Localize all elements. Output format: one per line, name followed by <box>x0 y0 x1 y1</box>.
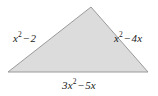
right-side-term: 4x <box>131 32 142 44</box>
right-side-label: x2−4x <box>114 33 142 44</box>
base-label: 3x2−5x <box>0 80 158 91</box>
base-coefficient: 3x <box>62 79 73 91</box>
triangle-figure: x2−2 x2−4x 3x2−5x <box>0 0 158 96</box>
base-term: 5x <box>85 79 96 91</box>
base-operator: − <box>77 79 85 91</box>
left-side-label: x2−2 <box>13 33 36 44</box>
left-side-term: 2 <box>30 32 36 44</box>
